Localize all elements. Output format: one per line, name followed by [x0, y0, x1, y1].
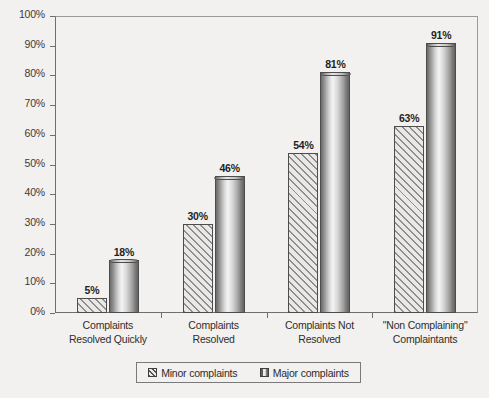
x-axis-category-line: Complaintants: [372, 333, 478, 347]
x-axis-category-label: "Non Complaining"Complaintants: [372, 319, 478, 346]
bar-value-label: 18%: [114, 246, 134, 258]
y-axis: 0%10%20%30%40%50%60%70%80%90%100%: [0, 16, 55, 313]
x-axis-labels: ComplaintsResolved QuicklyComplaintsReso…: [55, 319, 478, 353]
x-axis-category-line: Complaints: [55, 319, 161, 333]
legend-label-minor: Minor complaints: [161, 367, 237, 379]
bar-value-label: 81%: [325, 58, 345, 70]
bar-minor-complaints[interactable]: 54%: [288, 153, 318, 313]
bar-major-complaints[interactable]: 46%: [215, 176, 245, 313]
legend-label-major: Major complaints: [273, 367, 349, 379]
legend-swatch-major-icon: [260, 368, 269, 377]
bar-group: 5%18%: [77, 16, 139, 313]
bar-minor-complaints[interactable]: 63%: [394, 126, 424, 313]
bar-group: 54%81%: [288, 16, 350, 313]
x-axis-category-line: Resolved: [161, 333, 267, 347]
bar-group: 63%91%: [394, 16, 456, 313]
x-axis-separator-tick: [161, 313, 162, 318]
x-axis-separator-tick: [372, 313, 373, 318]
x-axis-separator-tick: [267, 313, 268, 318]
bar-value-label: 5%: [85, 284, 100, 296]
bar-value-label: 91%: [431, 29, 451, 41]
bar-chart: 0%10%20%30%40%50%60%70%80%90%100% 5%18%3…: [0, 0, 489, 398]
y-axis-tick-label: 90%: [25, 38, 45, 50]
bar-value-label: 46%: [220, 162, 240, 174]
y-axis-tick-mark: [50, 313, 55, 314]
x-axis-category-label: Complaints NotResolved: [267, 319, 373, 346]
bar-group: 30%46%: [183, 16, 245, 313]
y-axis-tick-label: 10%: [25, 275, 45, 287]
bar-minor-complaints[interactable]: 30%: [183, 224, 213, 313]
y-axis-tick-label: 0%: [30, 305, 45, 317]
bar-minor-complaints[interactable]: 5%: [77, 298, 107, 313]
bar-major-complaints[interactable]: 18%: [109, 260, 139, 313]
y-axis-tick-label: 50%: [25, 157, 45, 169]
x-axis-category-label: ComplaintsResolved Quickly: [55, 319, 161, 346]
bar-value-label: 54%: [293, 139, 313, 151]
legend-item-major: Major complaints: [260, 367, 349, 379]
y-axis-tick-label: 40%: [25, 186, 45, 198]
legend-item-minor: Minor complaints: [148, 367, 237, 379]
x-axis-category-line: Resolved: [267, 333, 373, 347]
x-axis-category-line: Resolved Quickly: [55, 333, 161, 347]
legend-swatch-minor-icon: [148, 368, 157, 377]
bar-value-label: 63%: [399, 112, 419, 124]
y-axis-tick-label: 20%: [25, 246, 45, 258]
y-axis-tick-label: 70%: [25, 97, 45, 109]
bar-major-complaints[interactable]: 81%: [320, 72, 350, 313]
y-axis-tick-label: 80%: [25, 67, 45, 79]
x-axis-category-line: Complaints: [161, 319, 267, 333]
y-axis-tick-label: 60%: [25, 127, 45, 139]
x-axis-category-line: Complaints Not: [267, 319, 373, 333]
x-axis-category-label: ComplaintsResolved: [161, 319, 267, 346]
bar-major-complaints[interactable]: 91%: [426, 43, 456, 313]
bar-value-label: 30%: [188, 210, 208, 222]
x-axis-category-line: "Non Complaining": [372, 319, 478, 333]
chart-legend: Minor complaints Major complaints: [136, 362, 361, 383]
y-axis-tick-label: 100%: [19, 8, 45, 20]
y-axis-tick-label: 30%: [25, 216, 45, 228]
bars-area: 5%18%30%46%54%81%63%91%: [55, 16, 478, 313]
